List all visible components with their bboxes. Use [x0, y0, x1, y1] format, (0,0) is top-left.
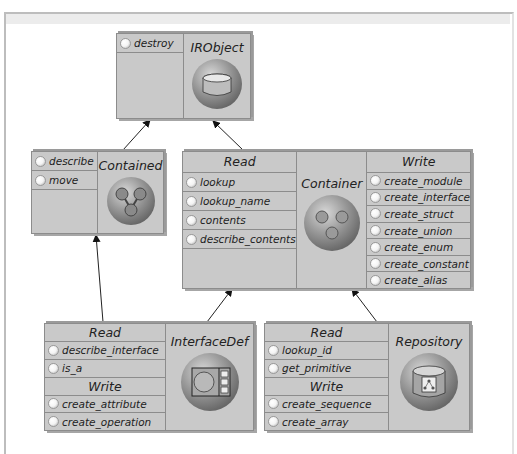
method-item[interactable]: create_operation	[45, 413, 165, 430]
read-section-header: Read	[265, 324, 388, 342]
radio-icon	[268, 345, 279, 356]
radio-icon	[268, 398, 279, 409]
repository-box: Read lookup_id get_primitive Write creat…	[264, 323, 470, 431]
method-item[interactable]: move	[32, 171, 97, 190]
method-item[interactable]: get_primitive	[265, 360, 388, 378]
method-item[interactable]: describe_contents	[183, 230, 296, 249]
write-section-header: Write	[367, 152, 470, 173]
arrow-container-to-irobject	[213, 121, 243, 150]
method-item[interactable]: destroy	[117, 34, 183, 53]
window-panel-icon	[181, 353, 239, 411]
method-item[interactable]: create_interface	[367, 190, 470, 207]
radio-icon	[370, 208, 381, 219]
arrow-contained-to-irobject	[123, 120, 150, 150]
read-section-header: Read	[183, 152, 296, 173]
contained-box: describe move Contained	[31, 151, 164, 234]
radio-icon	[370, 275, 381, 286]
interfacedef-box: Read describe_interface is_a Write creat…	[44, 323, 254, 431]
arrow-interfacedef-to-container	[207, 289, 232, 322]
radio-icon	[370, 225, 381, 236]
method-item[interactable]: create_struct	[367, 206, 470, 223]
three-dots-icon	[304, 195, 360, 251]
radio-icon	[48, 398, 59, 409]
arrow-repository-to-container	[352, 289, 377, 322]
radio-icon	[370, 175, 381, 186]
method-item[interactable]: create_attribute	[45, 396, 165, 414]
cylinder-icon	[192, 59, 242, 109]
method-item[interactable]: create_array	[265, 413, 388, 430]
radio-icon	[120, 38, 131, 49]
method-item[interactable]: lookup	[183, 173, 296, 192]
box-title: Contained	[99, 158, 163, 173]
write-section-header: Write	[45, 378, 165, 396]
radio-icon	[186, 177, 197, 188]
method-item[interactable]: create_sequence	[265, 396, 388, 414]
radio-icon	[35, 156, 46, 167]
arrow-interfacedef-to-contained	[96, 235, 103, 322]
method-item[interactable]: create_module	[367, 173, 470, 190]
write-section-header: Write	[265, 378, 388, 396]
box-title: InterfaceDef	[171, 334, 249, 349]
radio-icon	[370, 192, 381, 203]
method-item[interactable]: describe	[32, 152, 97, 171]
radio-icon	[268, 416, 279, 427]
repository-cylinder-icon	[400, 353, 458, 411]
method-item[interactable]: lookup_id	[265, 342, 388, 360]
radio-icon	[186, 215, 197, 226]
radio-icon	[48, 345, 59, 356]
method-item[interactable]: create_alias	[367, 272, 470, 288]
method-item[interactable]: create_union	[367, 223, 470, 240]
read-section-header: Read	[45, 324, 165, 342]
box-title: Repository	[395, 334, 462, 349]
container-box: Read lookup lookup_name contents describ…	[182, 151, 471, 289]
radio-icon	[35, 175, 46, 186]
radio-icon	[370, 258, 381, 269]
irobject-box: destroy IRObject	[116, 33, 251, 119]
box-title: IRObject	[190, 40, 243, 55]
box-title: Container	[301, 176, 362, 191]
radio-icon	[186, 196, 197, 207]
radio-icon	[268, 363, 279, 374]
method-item[interactable]: create_enum	[367, 239, 470, 256]
radio-icon	[48, 416, 59, 427]
radio-icon	[48, 363, 59, 374]
method-item[interactable]: describe_interface	[45, 342, 165, 360]
radio-icon	[186, 234, 197, 245]
method-item[interactable]: lookup_name	[183, 192, 296, 211]
method-item[interactable]: create_constant	[367, 256, 470, 273]
radio-icon	[370, 242, 381, 253]
branch-tree-icon	[107, 177, 155, 225]
method-item[interactable]: contents	[183, 211, 296, 230]
method-item[interactable]: is_a	[45, 360, 165, 378]
